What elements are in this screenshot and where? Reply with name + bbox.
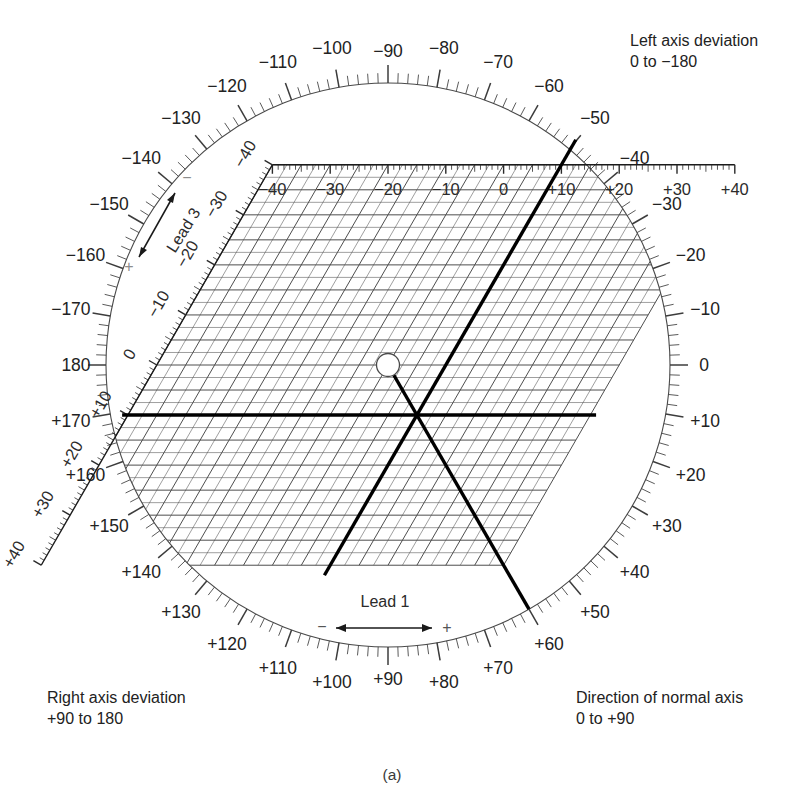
degree-label-120: +120 [207, 634, 247, 654]
degree-label-minus150: −150 [89, 194, 129, 214]
left-axis-deviation-line1: Left axis deviation [630, 32, 758, 49]
degree-label-minus130: −130 [161, 108, 201, 128]
degree-label-140: +140 [122, 562, 162, 582]
lead1-tick-label: −30 [316, 180, 344, 198]
degree-label-20: +20 [676, 465, 706, 485]
lead3-minus-sign: − [182, 169, 191, 186]
degree-label-180: 180 [61, 355, 90, 375]
lead1-plus-sign: + [442, 619, 451, 636]
lead1-tick-label: 0 [499, 180, 508, 198]
left-axis-deviation-line2: 0 to −180 [630, 53, 697, 70]
lead1-tick-label: −10 [432, 180, 460, 198]
right-axis-deviation-line1: Right axis deviation [47, 689, 186, 706]
lead1-tick-label: +30 [663, 180, 691, 198]
degree-label-minus90: −90 [373, 41, 403, 61]
degree-label-minus100: −100 [312, 38, 352, 58]
degree-label-minus50: −50 [580, 108, 610, 128]
degree-label-40: +40 [620, 562, 650, 582]
lead1-tick-label: −20 [374, 180, 402, 198]
origin-marker [377, 354, 400, 377]
degree-label-70: +70 [483, 658, 513, 678]
degree-label-minus140: −140 [122, 148, 162, 168]
degree-label-minus160: −160 [66, 245, 106, 265]
degree-label-minus20: −20 [676, 245, 706, 265]
lead1-tick-label: +20 [605, 180, 633, 198]
right-axis-deviation-line2: +90 to 180 [47, 710, 123, 727]
ecg-axis-chart: 0−10−20−30−40−50−60−70−80−90−100−110−120… [0, 0, 807, 810]
lead1-minus-sign: − [317, 618, 326, 635]
degree-label-minus120: −120 [207, 76, 247, 96]
degree-label-110: +110 [259, 658, 297, 678]
lead1-name-label: Lead 1 [361, 593, 410, 610]
degree-label-minus10: −10 [690, 299, 720, 319]
degree-label-50: +50 [580, 602, 610, 622]
degree-label-minus70: −70 [483, 52, 513, 72]
degree-label-30: +30 [652, 516, 682, 536]
lead1-tick-label: +40 [721, 180, 749, 198]
degree-label-170: +170 [51, 411, 91, 431]
degree-label-60: +60 [534, 634, 564, 654]
degree-label-minus60: −60 [534, 76, 564, 96]
degree-label-minus80: −80 [429, 38, 459, 58]
degree-label-150: +150 [89, 516, 129, 536]
degree-label-0: 0 [699, 355, 709, 375]
degree-label-10: +10 [690, 411, 720, 431]
figure-caption: (a) [383, 766, 402, 783]
degree-label-80: +80 [429, 672, 459, 692]
degree-label-90: +90 [373, 669, 403, 689]
degree-label-130: +130 [161, 602, 201, 622]
normal-axis-line1: Direction of normal axis [576, 689, 743, 706]
degree-label-100: +100 [312, 672, 352, 692]
degree-label-minus110: −110 [259, 52, 297, 72]
normal-axis-line2: 0 to +90 [576, 710, 634, 727]
degree-label-minus170: −170 [51, 299, 91, 319]
lead3-plus-sign: + [124, 258, 133, 275]
